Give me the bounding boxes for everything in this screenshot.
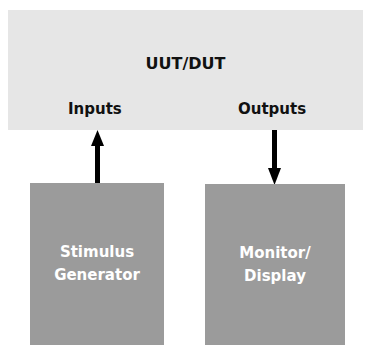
monitor-line2: Display — [239, 265, 310, 288]
monitor-line1: Monitor/ — [239, 242, 310, 265]
uut-dut-block: UUT/DUT — [8, 10, 363, 130]
stimulus-line1: Stimulus — [54, 241, 140, 264]
inputs-label: Inputs — [68, 100, 122, 118]
stimulus-generator-block: Stimulus Generator — [30, 183, 164, 345]
monitor-display-block: Monitor/ Display — [205, 184, 345, 345]
arrow-up-icon — [90, 130, 106, 184]
arrow-down-icon — [267, 130, 283, 186]
uut-title: UUT/DUT — [8, 54, 363, 73]
outputs-label: Outputs — [238, 100, 306, 118]
stimulus-line2: Generator — [54, 264, 140, 287]
